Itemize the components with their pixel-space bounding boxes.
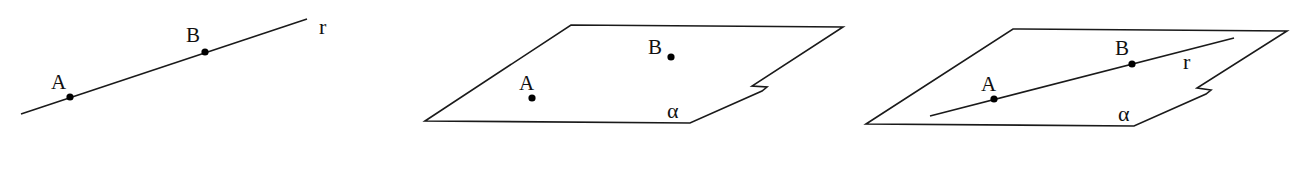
- geometry-figure: A B r A B α A B r α: [0, 0, 1303, 169]
- line-r: [21, 19, 307, 114]
- point-a-label: A: [981, 72, 997, 96]
- point-b-dot: [1128, 60, 1135, 67]
- plane-alpha: [866, 29, 1287, 126]
- panel-points-on-plane: A B α: [425, 25, 843, 123]
- point-a-label: A: [51, 70, 67, 94]
- point-b-dot: [667, 53, 674, 60]
- point-b-label: B: [186, 23, 200, 47]
- line-r-label: r: [1183, 49, 1191, 74]
- plane-alpha-label: α: [667, 98, 679, 123]
- point-b-label: B: [1115, 36, 1129, 60]
- panel-line-through-points: A B r: [21, 14, 327, 114]
- point-b-dot: [201, 48, 208, 55]
- line-r-label: r: [319, 14, 327, 39]
- point-a-dot: [66, 93, 73, 100]
- point-a-dot: [990, 95, 997, 102]
- point-a-dot: [528, 94, 535, 101]
- panel-line-in-plane: A B r α: [866, 29, 1287, 126]
- point-a-label: A: [519, 71, 535, 95]
- plane-alpha-label: α: [1118, 101, 1130, 126]
- point-b-label: B: [648, 35, 662, 59]
- plane-alpha: [425, 25, 843, 123]
